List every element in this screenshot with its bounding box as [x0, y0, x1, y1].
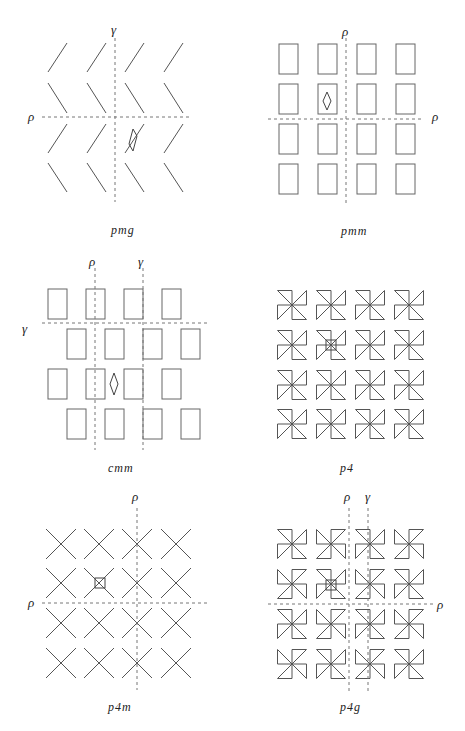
rectangle-motif	[357, 84, 376, 114]
chevron-stroke	[164, 43, 183, 72]
rectangle-motif	[396, 124, 415, 154]
rectangle-motif	[105, 329, 124, 359]
rectangle-motif	[124, 289, 143, 319]
rectangle-motif	[357, 44, 376, 74]
rectangle-motif	[67, 409, 86, 439]
rectangle-motif	[48, 289, 67, 319]
chevron-stroke	[125, 163, 144, 192]
rectangle-motif	[396, 44, 415, 74]
rectangle-motif	[279, 124, 298, 154]
axis-label-rho-horizontal: ρ	[431, 109, 438, 124]
caption-pmg: pmg	[110, 223, 135, 237]
chevron-stroke	[164, 163, 183, 192]
rectangle-motif	[396, 84, 415, 114]
axis-label-rho: ρ	[88, 254, 95, 269]
chevron-stroke	[48, 43, 67, 72]
panel-p4m: ρ ρ p4m	[27, 489, 210, 714]
rectangle-motif	[357, 164, 376, 194]
panel-p4g: ρ γ ρ p4g	[268, 489, 443, 714]
rectangle-motif	[318, 164, 337, 194]
chevron-stroke	[125, 43, 144, 72]
axis-label-gamma-vertical: γ	[365, 489, 371, 504]
chevron-stroke	[87, 43, 106, 72]
rectangle-motif	[396, 164, 415, 194]
rectangle-motif	[279, 44, 298, 74]
rectangle-motif	[318, 124, 337, 154]
axis-label-gamma-horizontal: γ	[22, 321, 28, 336]
chevron-stroke	[48, 83, 67, 113]
rectangle-motif	[67, 329, 86, 359]
rectangle-motif	[162, 289, 181, 319]
caption-p4m: p4m	[107, 700, 132, 714]
panel-pmm: ρ ρ pmm	[268, 24, 438, 238]
rectangle-motif	[181, 409, 200, 439]
rectangle-motif	[318, 44, 337, 74]
axis-label-rho: ρ	[27, 109, 34, 124]
axis-label-rho-vertical: ρ	[343, 489, 350, 504]
chevron-stroke	[48, 163, 67, 192]
chevron-stroke	[164, 83, 183, 113]
caption-pmm: pmm	[340, 224, 367, 238]
chevron-stroke	[48, 124, 67, 153]
axis-label-gamma-vertical: γ	[138, 254, 144, 269]
rectangle-motif	[143, 409, 162, 439]
rectangle-motif	[143, 329, 162, 359]
caption-cmm: cmm	[108, 461, 134, 475]
caption-p4: p4	[339, 461, 354, 475]
rectangle-motif	[279, 164, 298, 194]
rhombus-marker-icon	[110, 373, 118, 395]
panel-cmm: ρ γ γ cmm	[22, 254, 210, 475]
chevron-stroke	[87, 83, 106, 113]
chevron-stroke	[164, 124, 183, 153]
chevron-stroke	[125, 83, 144, 113]
rectangle-motif	[124, 369, 143, 399]
p4-motifs	[278, 291, 424, 439]
chevron-stroke	[87, 124, 106, 153]
rhombus-marker-icon	[323, 92, 331, 110]
panel-pmg: γ ρ pmg	[27, 22, 190, 237]
axis-label-rho-horizontal: ρ	[27, 595, 34, 610]
chevron-stroke	[87, 163, 106, 192]
rectangle-motif	[181, 329, 200, 359]
cmm-motifs	[48, 289, 200, 439]
caption-p4g: p4g	[339, 700, 361, 714]
rectangle-motif	[357, 124, 376, 154]
square-marker-icon	[95, 578, 105, 588]
rectangle-motif	[162, 369, 181, 399]
axis-label-rho-vertical: ρ	[131, 489, 138, 504]
chevron-stroke	[125, 124, 144, 153]
wallpaper-groups-figure: γ ρ pmg ρ ρ pmm ρ γ γ cmm p4 ρ ρ	[0, 0, 465, 731]
rectangle-motif	[105, 409, 124, 439]
rectangle-motif	[48, 369, 67, 399]
axis-label-rho-vertical: ρ	[341, 24, 348, 39]
axis-label-rho-horizontal: ρ	[436, 597, 443, 612]
rectangle-motif	[279, 84, 298, 114]
axis-label-gamma: γ	[111, 22, 117, 37]
panel-p4: p4	[278, 291, 424, 476]
